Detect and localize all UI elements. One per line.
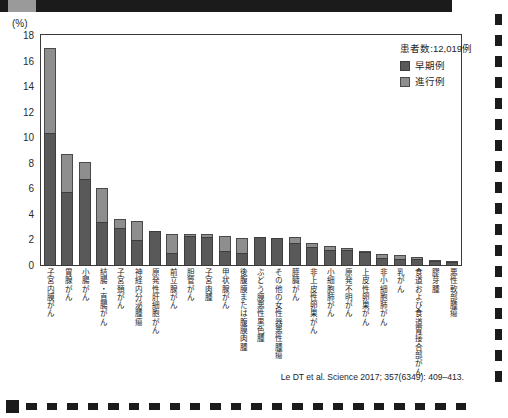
- stacked-bar: [271, 238, 283, 265]
- dash-mark: [67, 403, 77, 410]
- dash-mark: [292, 403, 302, 410]
- bar-segment-early: [411, 259, 423, 265]
- dash-mark: [129, 403, 139, 410]
- dash-mark: [108, 403, 118, 410]
- bar-segment-early: [341, 250, 353, 265]
- x-axis-label: 胆管がん: [181, 268, 199, 380]
- dash-mark: [374, 403, 384, 410]
- x-axis-label: 悪性軟部腫瘍: [444, 268, 462, 380]
- dash-mark: [495, 14, 502, 25]
- dash-mark: [170, 403, 180, 410]
- dash-mark: [353, 403, 363, 410]
- bar-column: [216, 35, 234, 265]
- x-axis-label: 原発不明がん: [339, 268, 357, 380]
- bar-segment-early: [446, 262, 458, 265]
- bar-segment-advanced: [61, 154, 73, 192]
- legend: 患者数:12,019例 早期例 進行例: [400, 42, 472, 89]
- dash-mark: [495, 203, 502, 214]
- y-axis-tick-label: 12: [4, 106, 34, 117]
- bar-segment-early: [149, 231, 161, 266]
- stacked-bar: [376, 254, 388, 265]
- dash-mark: [495, 77, 502, 88]
- bar-segment-advanced: [166, 234, 178, 253]
- bar-column: [129, 35, 147, 265]
- bar-column: [251, 35, 269, 265]
- x-axis-label-text: 原発不明がん: [343, 268, 351, 318]
- x-axis-label: 後腹膜または腹膜肉腫: [234, 268, 252, 380]
- dash-mark: [88, 403, 98, 410]
- bar-segment-advanced: [114, 219, 126, 228]
- dash-mark: [47, 403, 57, 410]
- bar-segment-advanced: [44, 48, 56, 134]
- bar-segment-early: [79, 179, 91, 265]
- stacked-bar: [44, 48, 56, 265]
- x-axis-label-text: ぶどう膜悪性黒色腫: [256, 268, 264, 343]
- x-axis-label-text: 非小細胞肺がん: [378, 268, 386, 326]
- bar-column: [76, 35, 94, 265]
- decorative-bottom-square: [6, 400, 19, 413]
- dash-mark: [210, 403, 220, 410]
- x-axis-label: 上皮性卵巣がん: [356, 268, 374, 380]
- x-axis-label-text: 小腸がん: [81, 268, 89, 301]
- bar-segment-early: [184, 236, 196, 265]
- bar-segment-advanced: [79, 162, 91, 180]
- x-axis-label: 原発性肝細胞がん: [146, 268, 164, 380]
- y-axis-tick-label: 4: [4, 208, 34, 219]
- dash-mark: [313, 403, 323, 410]
- bar-segment-early: [429, 261, 441, 265]
- bar-column: [199, 35, 217, 265]
- x-axis-label-text: 子宮頚がん: [116, 268, 124, 310]
- stacked-bar: [149, 231, 161, 266]
- bar-segment-early: [44, 133, 56, 265]
- bar-column: [356, 35, 374, 265]
- x-axis-label-text: 神経内分泌腫瘍: [133, 268, 141, 326]
- x-axis-label-text: 甲状腺がん: [221, 268, 229, 310]
- bar-segment-early: [324, 250, 336, 265]
- bar-column: [339, 35, 357, 265]
- y-axis: 024681012141618: [0, 34, 40, 266]
- dash-mark: [495, 56, 502, 67]
- x-axis-label-text: 原発性肝細胞がん: [151, 268, 159, 334]
- dash-mark: [435, 403, 445, 410]
- dash-mark: [495, 182, 502, 193]
- bar-segment-advanced: [131, 221, 143, 240]
- bar-segment-early: [271, 238, 283, 265]
- dash-mark: [495, 161, 502, 172]
- x-axis-label-text: その他の女性器悪性腫瘍: [273, 268, 281, 359]
- x-axis-label: 食道および食道胃接合部がん: [409, 268, 427, 380]
- source-citation: Le DT et al. Science 2017; 357(6349): 40…: [281, 372, 464, 382]
- bar-segment-early: [236, 253, 248, 265]
- x-axis-label: その他の女性器悪性腫瘍: [269, 268, 287, 380]
- bar-column: [94, 35, 112, 265]
- bar-segment-early: [131, 240, 143, 265]
- x-axis-label-text: 前立腺がん: [168, 268, 176, 310]
- y-axis-tick-label: 16: [4, 55, 34, 66]
- dash-mark: [495, 371, 502, 382]
- x-axis-label-text: 胃腺がん: [63, 268, 71, 301]
- decorative-right-dashes: [495, 14, 502, 384]
- bar-column: [304, 35, 322, 265]
- y-axis-tick-label: 18: [4, 30, 34, 41]
- x-axis-label-text: 後腹膜または腹膜肉腫: [238, 268, 246, 351]
- dash-mark: [26, 403, 36, 410]
- bar-segment-early: [201, 237, 213, 265]
- x-axis-label-text: 子宮内膜がん: [46, 268, 54, 318]
- x-axis-label: 小細胞肺がん: [321, 268, 339, 380]
- stacked-bar: [359, 251, 371, 265]
- x-axis-label-text: 上皮性卵巣がん: [361, 268, 369, 326]
- bar-segment-early: [61, 192, 73, 265]
- y-axis-tick-label: 6: [4, 183, 34, 194]
- bar-column: [286, 35, 304, 265]
- x-axis-category-labels: 子宮内膜がん胃腺がん小腸がん結腸・直腸がん子宮頚がん神経内分泌腫瘍原発性肝細胞が…: [41, 268, 461, 386]
- x-axis-label-text: 胆管がん: [186, 268, 194, 301]
- dash-mark: [495, 350, 502, 361]
- dash-mark: [149, 403, 159, 410]
- legend-swatch-advanced-icon: [400, 77, 410, 87]
- stacked-bar: [429, 260, 441, 265]
- stacked-bar: [341, 248, 353, 265]
- stacked-bar: [131, 221, 143, 265]
- stacked-bar: [254, 237, 266, 265]
- x-axis-label: 非上皮性卵巣がん: [304, 268, 322, 380]
- x-axis-label: 子宮頚がん: [111, 268, 129, 380]
- stacked-bar: [166, 234, 178, 265]
